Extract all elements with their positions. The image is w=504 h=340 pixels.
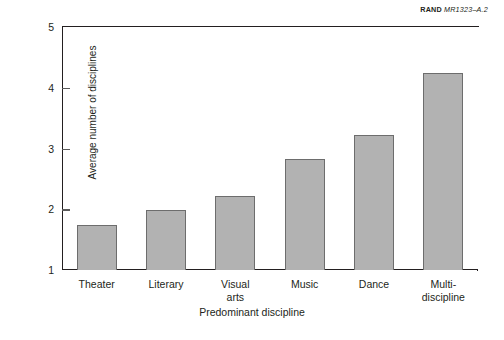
source-label: RAND MR1323–A.2	[420, 5, 488, 14]
chart-figure: RAND MR1323–A.2 Average number of discip…	[0, 0, 504, 340]
y-tick-label: 2	[24, 204, 54, 214]
x-tick-label-line: arts	[190, 291, 280, 304]
x-tick-label-line: Multi-	[398, 278, 488, 291]
bar	[285, 159, 325, 270]
source-label-code: MR1323–A.2	[444, 5, 488, 14]
y-tick-label: 1	[24, 265, 54, 275]
y-tick-mark	[62, 149, 70, 150]
bar	[146, 210, 186, 270]
bar	[77, 225, 117, 270]
y-tick-mark	[62, 209, 70, 210]
x-axis-title: Predominant discipline	[0, 306, 504, 318]
y-tick-label: 3	[24, 144, 54, 154]
plot-area: Average number of disciplines	[62, 27, 478, 270]
y-tick-label: 4	[24, 83, 54, 93]
source-label-org: RAND	[420, 5, 442, 14]
y-tick-mark	[62, 88, 70, 89]
bar	[215, 196, 255, 270]
bar	[423, 73, 463, 270]
y-axis-title: Average number of disciplines	[87, 18, 98, 208]
y-tick-label: 5	[24, 22, 54, 32]
bar	[354, 135, 394, 270]
x-tick-label-line: discipline	[398, 291, 488, 304]
x-tick-label: Multi-discipline	[398, 278, 488, 304]
